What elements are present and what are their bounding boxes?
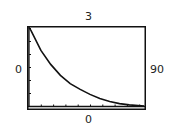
plot-area [27, 26, 146, 110]
ymin-label: 0 [15, 64, 22, 75]
graph-window [27, 26, 146, 110]
xmin-label: 0 [85, 114, 92, 125]
xmax-label: 90 [150, 64, 164, 75]
ymax-label: 3 [85, 11, 92, 22]
window-frame [28, 27, 146, 110]
